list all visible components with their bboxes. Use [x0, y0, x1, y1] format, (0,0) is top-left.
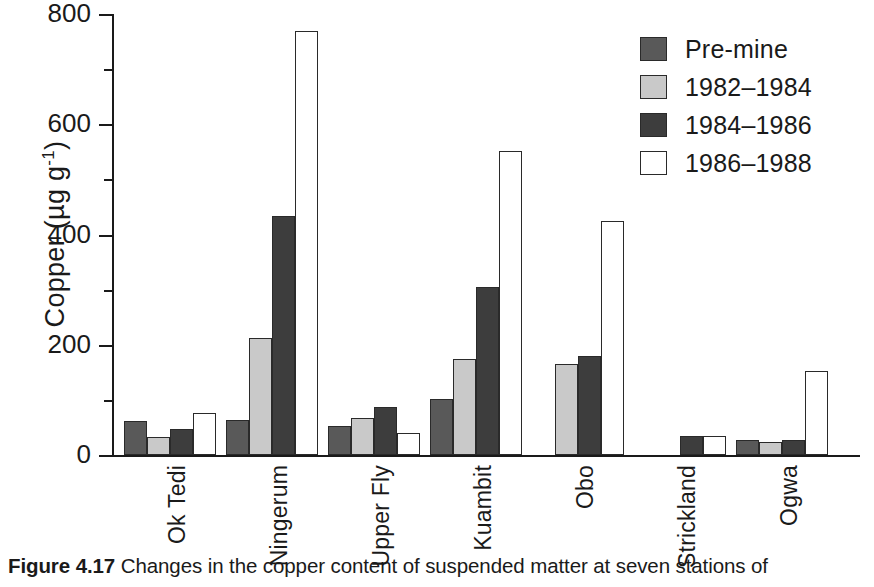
bar[interactable] [226, 420, 249, 455]
bar[interactable] [805, 371, 828, 455]
bar-group [226, 14, 318, 455]
bar[interactable] [193, 413, 216, 455]
legend: Pre-mine1982–19841984–19861986–1988 [640, 30, 812, 182]
legend-item[interactable]: Pre-mine [640, 30, 812, 68]
bar[interactable] [147, 437, 170, 455]
legend-label: 1982–1984 [685, 73, 812, 102]
y-tick-minor [104, 290, 112, 292]
caption-label: Figure 4.17 [8, 554, 115, 577]
y-tick-major: 0 [99, 455, 112, 457]
bar[interactable] [759, 442, 782, 455]
legend-label: 1984–1986 [685, 111, 812, 140]
bar[interactable] [703, 436, 726, 455]
legend-swatch [640, 113, 667, 137]
category-label: Ogwa [776, 465, 803, 526]
y-tick-major: 800 [99, 14, 112, 16]
y-tick-minor [104, 69, 112, 71]
bar[interactable] [328, 426, 351, 455]
bar[interactable] [374, 407, 397, 455]
y-tick-major: 400 [99, 235, 112, 237]
category-label: Kuambit [470, 465, 497, 551]
legend-swatch [640, 75, 667, 99]
x-axis-line [112, 455, 860, 457]
y-tick-label: 0 [77, 440, 91, 468]
y-tick-minor [104, 400, 112, 402]
y-tick-label: 200 [48, 330, 91, 358]
y-tick-major: 200 [99, 345, 112, 347]
y-axis-line [112, 14, 114, 455]
legend-label: 1986–1988 [685, 149, 812, 178]
bar[interactable] [601, 221, 624, 455]
legend-swatch [640, 151, 667, 175]
bar-group [124, 14, 216, 455]
y-tick-label: 600 [48, 109, 91, 137]
bar[interactable] [295, 31, 318, 455]
legend-item[interactable]: 1982–1984 [640, 68, 812, 106]
bar[interactable] [555, 364, 578, 456]
bar[interactable] [680, 436, 703, 455]
legend-item[interactable]: 1984–1986 [640, 106, 812, 144]
bar[interactable] [397, 433, 420, 455]
category-label: Ok Tedi [164, 465, 191, 544]
y-tick-label: 800 [48, 0, 91, 27]
legend-label: Pre-mine [685, 35, 788, 64]
legend-item[interactable]: 1986–1988 [640, 144, 812, 182]
y-tick-major: 600 [99, 124, 112, 126]
bar[interactable] [499, 151, 522, 455]
bar[interactable] [453, 359, 476, 455]
caption-text: Changes in the copper content of suspend… [121, 554, 768, 577]
category-label: Ningerum [266, 465, 293, 566]
bar[interactable] [170, 429, 193, 455]
bar[interactable] [736, 440, 759, 455]
bar[interactable] [272, 216, 295, 455]
figure-container: Copper (µg g-1) 0200400600800 Ok TediNin… [0, 0, 874, 587]
bar-group [430, 14, 522, 455]
y-axis-label-main: Copper [40, 237, 70, 327]
bar[interactable] [476, 287, 499, 455]
bar[interactable] [430, 399, 453, 455]
y-tick-minor [104, 179, 112, 181]
y-axis-label-units-post: ) [40, 141, 70, 150]
bar[interactable] [782, 440, 805, 455]
bar-group [532, 14, 624, 455]
y-axis-label-units-exponent: -1 [39, 150, 58, 166]
category-label: Obo [572, 465, 599, 509]
figure-caption: Figure 4.17 Changes in the copper conten… [8, 553, 874, 578]
y-tick-label: 400 [48, 220, 91, 248]
bar[interactable] [578, 356, 601, 455]
bar[interactable] [124, 421, 147, 455]
bar-group [328, 14, 420, 455]
bar[interactable] [249, 338, 272, 455]
legend-swatch [640, 37, 667, 61]
bar[interactable] [351, 418, 374, 455]
category-label: Upper Fly [368, 465, 395, 567]
